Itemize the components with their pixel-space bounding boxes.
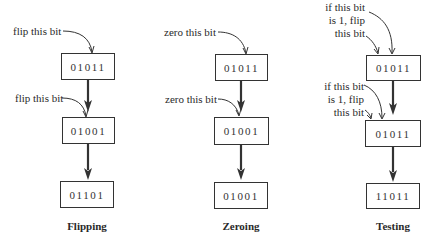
bit-box-zeroing-1: 01011: [215, 54, 268, 81]
bit-operations-diagram: flip this bit 01011 flip this bit 01001 …: [0, 0, 431, 242]
bit-box-flipping-1: 01011: [61, 53, 115, 80]
annotation-test-1-line-3: this bit: [325, 27, 365, 40]
annotation-test-1: if this bit is 1, flip this bit: [325, 1, 365, 40]
testing-arrows: [364, 12, 397, 182]
annotation-test-2-line-3: this bit: [324, 106, 364, 119]
bit-box-testing-2: 01011: [365, 120, 421, 147]
annotation-test-2: if this bit is 1, flip this bit: [324, 80, 364, 119]
annotation-flip-1: flip this bit: [13, 25, 61, 38]
caption-flipping: Flipping: [67, 220, 107, 232]
annotation-test-2-line-1: if this bit: [324, 80, 364, 93]
bit-box-zeroing-3: 01001: [214, 182, 268, 209]
annotation-flip-2: flip this bit: [15, 92, 63, 105]
annotation-test-2-line-2: is 1, flip: [324, 93, 364, 106]
bit-box-testing-1: 01011: [366, 55, 421, 81]
annotation-zero-2: zero this bit: [165, 93, 217, 106]
bit-box-zeroing-2: 01001: [214, 117, 269, 145]
annotation-test-1-line-1: if this bit: [325, 1, 365, 14]
bit-box-flipping-3: 01101: [60, 181, 114, 208]
annotation-zero-1: zero this bit: [164, 26, 216, 39]
caption-testing: Testing: [376, 220, 410, 232]
bit-box-testing-3: 11011: [366, 183, 420, 209]
annotation-test-1-line-2: is 1, flip: [325, 14, 365, 27]
caption-zeroing: Zeroing: [222, 220, 259, 232]
bit-box-flipping-2: 01001: [62, 117, 115, 144]
